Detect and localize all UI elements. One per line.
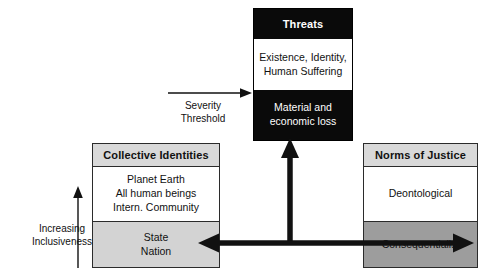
threats-header: Threats <box>254 9 352 39</box>
norms-of-justice-upper-cell: Deontological <box>364 167 477 222</box>
threats-link-arrow-icon <box>281 138 299 243</box>
severity-threshold-arrow-icon <box>168 88 252 98</box>
threats-upper-cell: Existence, Identity, Human Suffering <box>254 39 352 90</box>
increasing-inclusiveness-label: Increasing Inclusiveness <box>18 222 106 248</box>
threats-lower-cell: Material and economic loss <box>254 90 352 140</box>
norms-of-justice-box: Norms of Justice Deontological Consequen… <box>363 143 478 268</box>
severity-threshold-label: Severity Threshold <box>160 99 246 125</box>
diagram-canvas: Threats Existence, Identity, Human Suffe… <box>0 0 499 278</box>
collective-identities-box: Collective Identities Planet Earth All h… <box>92 143 220 268</box>
norms-of-justice-lower-cell: Consequentialist <box>364 222 477 267</box>
collective-identities-lower-cell: State Nation <box>93 222 219 267</box>
collective-identities-header: Collective Identities <box>93 144 219 167</box>
threats-box: Threats Existence, Identity, Human Suffe… <box>253 8 353 141</box>
collective-identities-upper-cell: Planet Earth All human beings Intern. Co… <box>93 167 219 222</box>
norms-of-justice-header: Norms of Justice <box>364 144 477 167</box>
